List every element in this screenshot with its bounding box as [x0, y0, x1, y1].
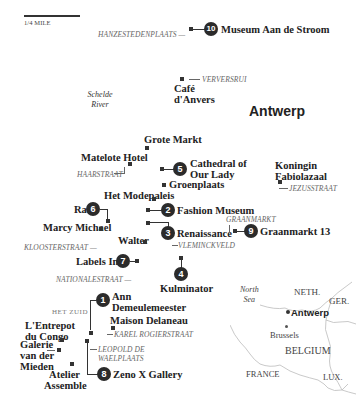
number-marker-4[interactable]: 4 [174, 267, 188, 281]
place-galerie-van-der-mieden[interactable]: Galerie van der Mieden [20, 339, 54, 372]
place-renaissance[interactable]: Renaissance [177, 228, 232, 239]
connector-8-v [87, 343, 88, 375]
place-groenplaats[interactable]: Groenplaats [169, 179, 224, 190]
street-haarstraat: HAARSTRAAT [77, 170, 123, 179]
marker-walter [143, 240, 147, 244]
inset-north-sea: North Sea [240, 285, 259, 305]
number-marker-5[interactable]: 5 [173, 162, 187, 176]
inset-lux: LUX. [323, 372, 343, 382]
marker-grote-markt [145, 146, 149, 150]
river-label: Schelde River [80, 90, 120, 110]
scale-label: 1/4 MILE [24, 19, 51, 26]
place-museum-aan-de-stroom[interactable]: Museum Aan de Stroom [221, 24, 330, 35]
number-marker-7[interactable]: 7 [116, 254, 130, 268]
marker-het-modepaleis [152, 197, 156, 201]
number-marker-9[interactable]: 9 [244, 224, 258, 238]
place-maison-delaneau[interactable]: Maison Delaneau [110, 315, 188, 326]
place-cafe-danvers[interactable]: Café d'Anvers [174, 83, 215, 105]
marker-koningin-fabiolazaal [278, 180, 282, 184]
number-marker-8[interactable]: 8 [97, 367, 111, 381]
connector-graanmarkt-v [229, 225, 230, 233]
connector-1 [90, 300, 97, 301]
connector-vleminckveld [172, 245, 178, 246]
place-matelote-hotel[interactable]: Matelote Hotel [81, 152, 148, 163]
street-nationalestraat: NATIONALESTRAAT — [56, 275, 131, 284]
place-atelier-assemble[interactable]: Atelier Assemble [44, 369, 80, 391]
inset-france: FRANCE [246, 369, 280, 379]
place-cathedral-of-our-lady[interactable]: Cathedral of Our Lady [190, 158, 247, 180]
place-ann-demeulemeester[interactable]: Ann Demeulemeester [112, 291, 186, 313]
marker-matelote-hotel [128, 162, 132, 166]
inset-brussels: Brussels [270, 330, 299, 340]
connector-galerie [47, 350, 55, 351]
inset-antwerp: Antwerp [291, 307, 329, 318]
number-marker-1[interactable]: 1 [96, 293, 110, 307]
inset-ger: GER. [329, 296, 349, 306]
marker-lentrepot-du-congo [60, 338, 64, 342]
number-marker-10[interactable]: 10 [204, 22, 218, 36]
connector-haarstraat-v [124, 167, 125, 174]
number-marker-3[interactable]: 3 [161, 226, 175, 240]
street-karel-rogierstraat: KAREL ROGIERSTRAAT [114, 330, 193, 339]
street-vleminckveld: VLEMINCKVELD [178, 241, 235, 250]
street-jezusstraat: JEZUSSTRAAT [289, 184, 337, 193]
inset-belgium: BELGIUM [285, 345, 331, 356]
inset-neth: NETH. [294, 287, 320, 297]
connector-1-v [90, 300, 91, 330]
river-line1: Schelde [80, 90, 120, 100]
street-leopold-de-waelplaats: LEOPOLD DE WAELPLAATS [98, 345, 145, 363]
city-label: Antwerp [249, 103, 305, 119]
number-marker-2[interactable]: 2 [161, 203, 175, 217]
scale-bar [24, 15, 80, 17]
connector-jezusstraat [279, 188, 288, 189]
place-graanmarkt-13[interactable]: Graanmarkt 13 [260, 226, 330, 237]
street-kloosterstraat: KLOOSTERSTRAAT — [24, 243, 97, 252]
connector-karel-rogierstraat [107, 334, 113, 335]
marker-marcy-michael [99, 227, 103, 231]
connector-verversrui [189, 79, 200, 80]
connector-leopold [90, 349, 97, 350]
connector-3 [150, 222, 169, 223]
district-het-zuid: HET ZUID [52, 308, 88, 316]
marker-groenplaats [162, 183, 166, 187]
number-marker-6[interactable]: 6 [86, 202, 100, 216]
place-het-modepaleis[interactable]: Het Modepaleis [104, 190, 174, 201]
place-grote-markt[interactable]: Grote Markt [144, 134, 202, 145]
marker-labels-inc [135, 259, 139, 263]
street-graanmarkt: GRAANMARKT [226, 215, 276, 224]
inset-brussels-dot [285, 325, 288, 328]
place-zeno-x-gallery[interactable]: Zeno X Gallery [113, 369, 182, 380]
place-ra[interactable]: Ra [74, 204, 87, 215]
place-koningin-fabiolazaal[interactable]: Koningin Fabiolazaal [275, 160, 327, 182]
connector-6-v [107, 209, 108, 219]
river-line2: River [80, 100, 120, 110]
marker-cafe-danvers [180, 77, 184, 81]
street-hanzestedenplaats: HANZESTEDENPLAATS — [98, 30, 185, 39]
inset-antwerp-dot [286, 310, 290, 314]
marker-galerie-van-der-mieden [57, 348, 61, 352]
marker-atelier-assemble [70, 362, 74, 366]
connector-haarstraat [114, 173, 124, 174]
marker-ann-demeulemeester [89, 331, 93, 335]
